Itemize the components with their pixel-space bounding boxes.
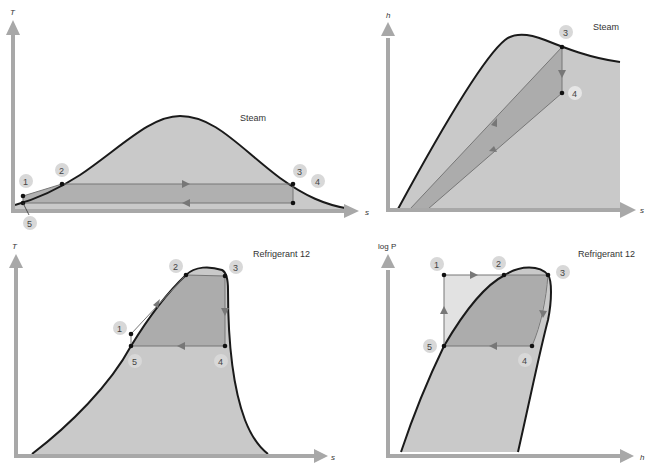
point-label-3: 3 [229, 260, 243, 274]
point-label-3: 3 [556, 265, 570, 279]
y-axis-arrow-icon [381, 22, 395, 36]
point-label-2: 2 [169, 259, 183, 273]
point-label-3: 3 [293, 164, 307, 178]
x-axis-label: s [331, 453, 335, 462]
x-axis-label: s [640, 206, 644, 215]
svg-text:3: 3 [233, 263, 238, 273]
svg-text:1: 1 [23, 177, 28, 187]
svg-text:4: 4 [315, 177, 320, 187]
point-label-5: 5 [23, 216, 37, 230]
diagram-title: Steam [240, 113, 266, 123]
point-label-1: 1 [113, 321, 127, 335]
y-axis [14, 268, 18, 458]
point-label-5: 5 [128, 354, 142, 368]
panel-r12-ts: T s Refrigerant 12 1 2 3 4 5 [9, 242, 335, 463]
svg-text:5: 5 [427, 342, 432, 352]
x-axis-arrow-icon [620, 449, 634, 463]
x-axis [386, 454, 620, 458]
y-axis-arrow-icon [6, 20, 20, 35]
point-label-1: 1 [19, 174, 33, 188]
svg-text:2: 2 [496, 259, 501, 269]
y-axis-arrow-icon [381, 254, 395, 268]
point-label-5: 5 [423, 339, 437, 353]
svg-text:4: 4 [218, 357, 223, 367]
svg-text:3: 3 [560, 268, 565, 278]
svg-text:3: 3 [297, 167, 302, 177]
y-axis-label: h [386, 11, 391, 20]
y-axis-label: T [10, 8, 16, 17]
y-axis-arrow-icon [9, 254, 23, 268]
diagram-title: Steam [593, 22, 619, 32]
y-axis [386, 270, 390, 458]
svg-text:3: 3 [563, 28, 568, 38]
svg-text:2: 2 [59, 166, 64, 176]
point-label-4: 4 [214, 354, 228, 368]
x-axis-arrow-icon [620, 202, 636, 218]
diagram-title: Refrigerant 12 [253, 249, 310, 259]
point-label-3: 3 [559, 25, 573, 39]
cycle-region-fill [131, 275, 225, 346]
x-axis [11, 209, 344, 213]
svg-text:2: 2 [173, 262, 178, 272]
point-label-4: 4 [311, 174, 325, 188]
point-label-4: 4 [518, 353, 532, 367]
y-axis [11, 28, 15, 212]
svg-text:4: 4 [572, 89, 577, 99]
panel-steam-ts: T s Steam 1 2 3 4 5 [6, 8, 369, 230]
point-label-2: 2 [55, 163, 69, 177]
x-axis [14, 454, 314, 458]
diagram-title: Refrigerant 12 [578, 249, 635, 259]
point-label-1: 1 [430, 257, 444, 271]
x-axis-arrow-icon [314, 449, 328, 463]
point-label-2: 2 [492, 256, 506, 270]
point-label-4: 4 [568, 86, 582, 100]
x-axis [386, 208, 620, 212]
diagram-canvas: T s Steam 1 2 3 4 5 [0, 0, 650, 466]
x-axis-arrow-icon [344, 204, 359, 218]
svg-text:4: 4 [522, 356, 527, 366]
panel-r12-logph: log P h Refrigerant 12 1 2 3 4 5 [378, 242, 645, 463]
cycle-region-fill [23, 184, 293, 203]
x-axis-label: s [365, 208, 369, 217]
thermodynamic-diagrams-figure: T s Steam 1 2 3 4 5 [0, 0, 650, 466]
panel-steam-hs: h s Steam 3 4 [381, 11, 644, 218]
svg-text:1: 1 [117, 324, 122, 334]
svg-text:5: 5 [132, 357, 137, 367]
svg-text:5: 5 [27, 219, 32, 229]
svg-text:1: 1 [434, 260, 439, 270]
y-axis-label: log P [378, 242, 396, 251]
y-axis-label: T [12, 242, 18, 251]
y-axis [386, 38, 390, 212]
x-axis-label: h [640, 453, 645, 462]
